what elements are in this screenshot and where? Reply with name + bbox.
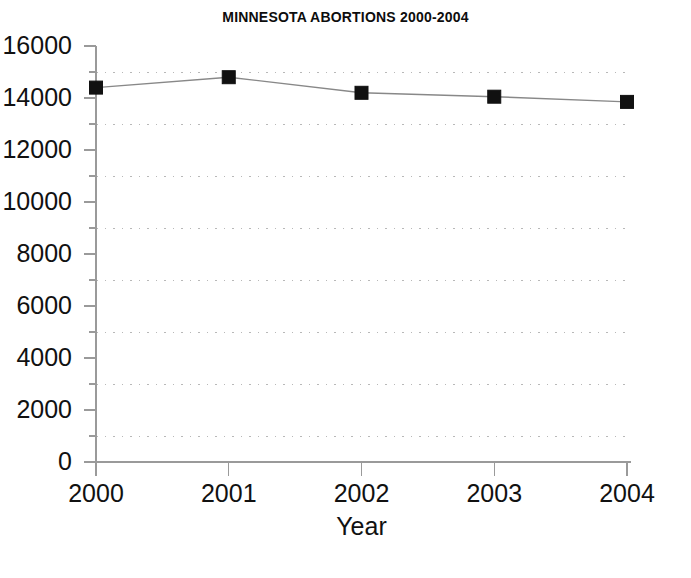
plot-area [96, 46, 627, 462]
gridlines-group [96, 72, 627, 436]
chart-figure: MINNESOTA ABORTIONS 2000-2004 0200040006… [0, 0, 691, 578]
x-axis-tick-label: 2003 [434, 479, 554, 507]
x-axis-title: Year [96, 512, 627, 540]
x-axis-tick-labels: 20002001200220032004 [96, 479, 627, 513]
y-axis-tick-label: 10000 [0, 189, 88, 214]
y-axis-tick-label: 12000 [0, 137, 88, 162]
data-point-marker [90, 81, 103, 94]
chart-title: MINNESOTA ABORTIONS 2000-2004 [0, 9, 691, 25]
data-point-marker [488, 90, 501, 103]
axis-lines-group [86, 46, 631, 462]
x-axis-tick-label: 2001 [169, 479, 289, 507]
data-point-marker [355, 86, 368, 99]
x-axis-tick-label: 2002 [302, 479, 422, 507]
y-axis-tick-label: 4000 [0, 345, 88, 370]
data-markers-group [90, 71, 634, 109]
y-axis-tick-label: 8000 [0, 241, 88, 266]
y-axis-tick-label: 2000 [0, 397, 88, 422]
y-axis-tick-label: 0 [0, 449, 88, 474]
data-point-marker [222, 71, 235, 84]
y-axis-tick-label: 16000 [0, 33, 88, 58]
x-axis-tick-label: 2004 [567, 479, 687, 507]
data-point-marker [621, 95, 634, 108]
x-axis-ticks-group [96, 462, 627, 476]
y-axis-tick-label: 6000 [0, 293, 88, 318]
plot-svg [96, 46, 627, 462]
y-axis-tick-labels: 0200040006000800010000120001400016000 [0, 46, 88, 462]
x-axis-tick-label: 2000 [36, 479, 156, 507]
y-axis-tick-label: 14000 [0, 85, 88, 110]
